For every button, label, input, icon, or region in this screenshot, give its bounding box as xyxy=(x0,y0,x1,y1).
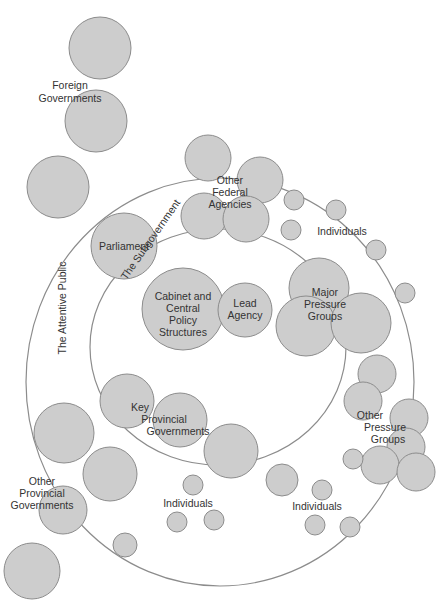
foreign-government-bubble xyxy=(69,17,131,79)
other-provincial-government-bubble xyxy=(83,447,137,501)
other-pressure-group-bubble xyxy=(361,446,399,484)
individual-bubble xyxy=(281,220,301,240)
other-provincial-government-bubble xyxy=(34,403,94,463)
individual-bubble xyxy=(305,515,325,535)
individual-bubble xyxy=(343,449,363,469)
individuals-label-bottom-left: Individuals xyxy=(163,497,213,509)
individual-bubble xyxy=(204,510,224,530)
other-pressure-group-bubble xyxy=(397,453,435,491)
individual-bubble xyxy=(113,533,137,557)
attentive-public-label: The Attentive Public xyxy=(56,262,68,355)
individual-bubble xyxy=(340,517,360,537)
individual-bubble xyxy=(266,464,298,496)
foreign-governments-label: ForeignGovernments xyxy=(38,79,101,104)
individual-bubble xyxy=(326,200,346,220)
individuals-label-top: Individuals xyxy=(317,225,367,237)
outer-bubble xyxy=(4,543,60,599)
individual-bubble xyxy=(284,190,304,210)
individual-bubble xyxy=(167,512,187,532)
key-provincial-government-bubble xyxy=(204,424,258,478)
policy-community-diagram: ForeignGovernments OtherFederalAgencies … xyxy=(0,0,446,615)
individuals-label-bottom-right: Individuals xyxy=(292,500,342,512)
other-provincial-governments-label: OtherProvincialGovernments xyxy=(10,475,73,511)
individual-bubble xyxy=(312,480,332,500)
individual-bubble xyxy=(183,475,203,495)
attentive-public-bubble xyxy=(27,156,89,218)
individual-bubble xyxy=(366,240,386,260)
individual-bubble xyxy=(395,283,415,303)
